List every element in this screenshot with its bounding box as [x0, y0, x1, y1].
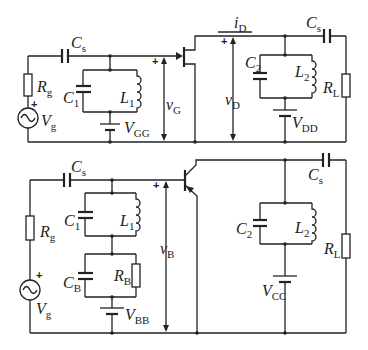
- ac-source-icon: [18, 108, 38, 128]
- bjt-circuit: Cs Rg + Vg C1 L1 CB RB V: [20, 153, 350, 335]
- vbb-label: VBB: [125, 306, 149, 326]
- v-base-label: vB: [160, 240, 174, 260]
- cs-in-label: Cs: [71, 158, 86, 178]
- vbb-battery: [100, 308, 124, 314]
- c1-capacitor: [78, 212, 93, 218]
- c2-label: C2: [236, 220, 252, 240]
- c2-label: C2: [245, 54, 261, 74]
- rl-label: RL: [323, 240, 341, 260]
- rg-resistor: [24, 74, 32, 96]
- l1-inductor: [136, 193, 140, 236]
- vd-plus: +: [221, 35, 227, 47]
- vd-voltage-arrow: [230, 37, 236, 141]
- l1-label: L1: [119, 212, 134, 232]
- l1-label: L1: [119, 89, 134, 109]
- cs-out-label: Cs: [306, 14, 321, 34]
- input-coupling-capacitor: [64, 173, 70, 187]
- rl-resistor: [342, 234, 350, 258]
- c2-capacitor: [253, 220, 267, 226]
- circuit-diagram: Cs Rg + Vg C1 L1 VGG: [0, 0, 368, 350]
- rl-resistor: [342, 74, 350, 97]
- vg-gate-plus: +: [152, 55, 158, 67]
- v-gate-label: vG: [166, 96, 181, 116]
- rg-resistor: [26, 216, 34, 240]
- rg-label: Rg: [39, 223, 56, 243]
- l2-label: L2: [294, 63, 309, 83]
- cb-capacitor: [78, 273, 93, 279]
- c1-label: C1: [64, 212, 80, 232]
- cb-label: CB: [63, 274, 81, 294]
- ac-source-icon: [20, 280, 40, 300]
- l1-inductor: [137, 70, 141, 112]
- vgg-battery: [100, 124, 120, 130]
- jfet-circuit: Cs Rg + Vg C1 L1 VGG: [18, 14, 350, 144]
- vdd-label: VDD: [292, 114, 318, 134]
- cs-out-label: Cs: [308, 166, 323, 186]
- l2-inductor: [312, 203, 316, 244]
- l2-label: L2: [294, 219, 309, 239]
- input-coupling-capacitor: [62, 49, 68, 63]
- i-drain-label: iD: [234, 14, 246, 34]
- vb-plus: +: [153, 179, 159, 191]
- vcc-battery: [273, 276, 297, 282]
- vgg-label: VGG: [124, 119, 150, 139]
- vg-label: Vg: [36, 300, 52, 320]
- rg-label: Rg: [36, 78, 53, 98]
- vg-plus-sign: +: [36, 269, 42, 281]
- collector-tank-wires: [260, 160, 312, 333]
- vg-label: Vg: [41, 112, 57, 132]
- jfet-transistor-icon: [176, 36, 346, 142]
- c1-capacitor: [76, 86, 91, 92]
- rb-resistor: [132, 264, 140, 287]
- cs-in-label: Cs: [71, 34, 86, 54]
- rl-label: RL: [322, 79, 340, 99]
- vcc-label: VCC: [262, 282, 286, 302]
- rb-label: RB: [113, 267, 131, 287]
- l2-inductor: [312, 55, 316, 98]
